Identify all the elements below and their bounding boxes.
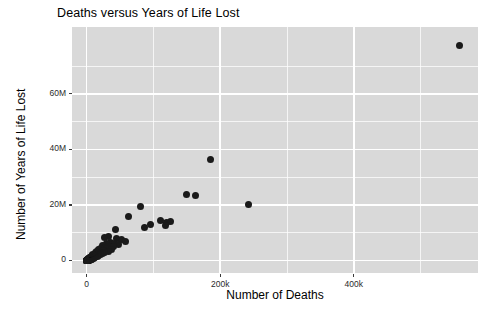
gridline-minor-horizontal [72, 177, 478, 178]
data-point [207, 156, 214, 163]
data-point [162, 222, 169, 229]
x-tick-mark [86, 274, 87, 277]
y-tick-mark [69, 149, 72, 150]
x-tick-label: 200k [200, 279, 240, 289]
y-tick-mark [69, 93, 72, 94]
y-tick-mark [69, 260, 72, 261]
y-tick-label: 60M [49, 88, 66, 98]
data-point [456, 42, 463, 49]
x-tick-label: 0 [67, 279, 107, 289]
data-point [125, 213, 132, 220]
x-tick-mark [353, 274, 354, 277]
gridline-major-horizontal [72, 149, 478, 151]
gridline-minor-horizontal [72, 232, 478, 233]
gridline-major-horizontal [72, 93, 478, 95]
data-point [122, 238, 129, 245]
x-axis-title: Number of Deaths [72, 288, 478, 302]
data-point [112, 226, 119, 233]
y-axis-title: Number of Years of Life Lost [14, 89, 28, 240]
data-point [183, 191, 190, 198]
x-tick-label: 400k [334, 279, 374, 289]
chart-title: Deaths versus Years of Life Lost [57, 6, 239, 20]
y-tick-mark [69, 204, 72, 205]
y-tick-label: 40M [49, 143, 66, 153]
gridline-minor-horizontal [72, 66, 478, 67]
x-tick-mark [220, 274, 221, 277]
gridline-major-horizontal [72, 204, 478, 206]
y-tick-label: 20M [49, 199, 66, 209]
gridline-minor-horizontal [72, 121, 478, 122]
data-point [192, 192, 199, 199]
y-tick-label: 0 [61, 254, 66, 264]
data-point [245, 201, 252, 208]
y-axis-tick-area [0, 0, 66, 313]
data-point [141, 224, 148, 231]
data-point [137, 203, 144, 210]
gridline-major-horizontal [72, 260, 478, 262]
scatter-chart-figure: Deaths versus Years of Life Lost Number … [0, 0, 494, 313]
plot-panel [72, 27, 478, 273]
